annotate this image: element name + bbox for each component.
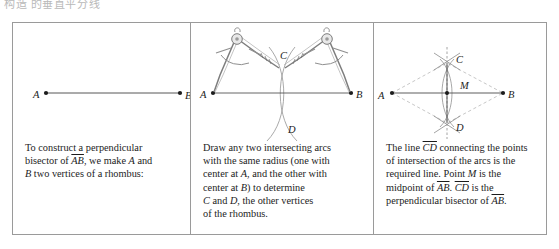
caption-line-3: center at A, and the other with xyxy=(203,168,327,179)
caption-line-5: C and D, the other vertices xyxy=(203,195,313,206)
step-2-caption: Draw any two intersecting arcs with the … xyxy=(191,141,373,220)
point-m-label: M xyxy=(459,80,470,91)
caption-line-3: required line. Point M is the xyxy=(386,168,501,179)
caption-line-1: Draw any two intersecting arcs xyxy=(203,142,331,153)
step-2-cell: A B C D Draw any two intersecting arcs w… xyxy=(190,23,373,234)
step-1-cell: A B To construct a perpendicular bisecto… xyxy=(13,23,190,234)
cut-off-header-text: 构造 的垂直平分线 xyxy=(0,0,559,14)
point-a-label: A xyxy=(377,90,385,101)
point-m-dot xyxy=(445,91,449,95)
point-a-dot xyxy=(390,91,394,95)
step-1-diagram: A B xyxy=(13,23,190,143)
perpendicular-bisector-figure: 构造 的垂直平分线 A B To construct a perpendicul… xyxy=(0,0,559,249)
point-b-label: B xyxy=(356,89,363,100)
step-3-diagram: A B C D M xyxy=(374,23,548,143)
caption-line-3b: two vertices of a rhombus: xyxy=(31,168,143,179)
point-a-dot xyxy=(44,91,48,95)
caption-line-1: To construct a perpendicular xyxy=(25,142,142,153)
point-a-label: A xyxy=(199,89,207,100)
three-step-table: A B To construct a perpendicular bisecto… xyxy=(12,22,547,235)
step-2-diagram: A B C D xyxy=(191,23,373,143)
caption-line-2: with the same radius (one with xyxy=(203,155,330,166)
caption-line-2: of intersection of the arcs is the xyxy=(386,155,515,166)
step-1-caption: To construct a perpendicular bisector of… xyxy=(13,141,190,181)
point-b-dot xyxy=(178,91,182,95)
point-a-label: A xyxy=(32,89,40,100)
compass-arcs-svg: A B C D xyxy=(191,23,374,143)
caption-line-1: The line CD connecting the points xyxy=(386,142,528,153)
step-3-cell: A B C D M The line CD connecting the poi… xyxy=(373,23,548,234)
point-c-label: C xyxy=(280,50,288,61)
rhombus-bisector-svg: A B C D M xyxy=(374,23,549,143)
caption-line-6: of the rhombus. xyxy=(203,208,268,219)
caption-line-5: perpendicular bisector of AB. xyxy=(386,195,507,206)
compass-left-icon xyxy=(214,28,280,92)
point-d-label: D xyxy=(455,122,464,133)
compass-right-icon xyxy=(284,28,350,92)
point-b-dot xyxy=(501,91,505,95)
caption-line-2: bisector of AB, we make A and xyxy=(25,155,152,166)
point-c-label: C xyxy=(456,54,464,65)
point-d-label: D xyxy=(287,124,296,135)
caption-line-4: center at B) to determine xyxy=(203,182,305,193)
point-b-label: B xyxy=(508,89,515,100)
step-3-caption: The line CD connecting the points of int… xyxy=(374,141,548,207)
caption-line-4: midpoint of AB. CD is the xyxy=(386,182,494,193)
segment-ab-svg: A B xyxy=(13,23,190,143)
